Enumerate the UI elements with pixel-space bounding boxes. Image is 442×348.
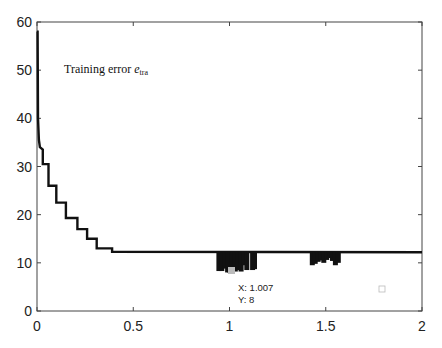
x-tick-label: 0: [33, 318, 41, 334]
training-error-chart: 0102030405060 00.511.52 Training error e…: [0, 0, 442, 348]
y-tick-label: 0: [24, 303, 32, 319]
x-tick-label: 2: [418, 318, 426, 334]
y-tick-label: 50: [16, 62, 32, 78]
series-annotation: Training error etra: [64, 62, 148, 77]
y-tick-label: 20: [16, 207, 32, 223]
x-tick-label: 0.5: [124, 318, 144, 334]
small-square-marker: [379, 286, 385, 292]
datatip-y-label: Y: 8: [238, 294, 254, 305]
y-tick-label: 40: [16, 110, 32, 126]
y-axis-ticks: 0102030405060: [16, 14, 422, 319]
y-tick-label: 60: [16, 14, 32, 30]
x-tick-label: 1: [226, 318, 234, 334]
y-tick-label: 10: [16, 255, 32, 271]
datatip-marker[interactable]: [228, 267, 235, 274]
datatip-x-label: X: 1.007: [238, 282, 273, 293]
datatip[interactable]: X: 1.007 Y: 8: [228, 267, 273, 305]
y-tick-label: 30: [16, 159, 32, 175]
x-tick-label: 1.5: [316, 318, 336, 334]
